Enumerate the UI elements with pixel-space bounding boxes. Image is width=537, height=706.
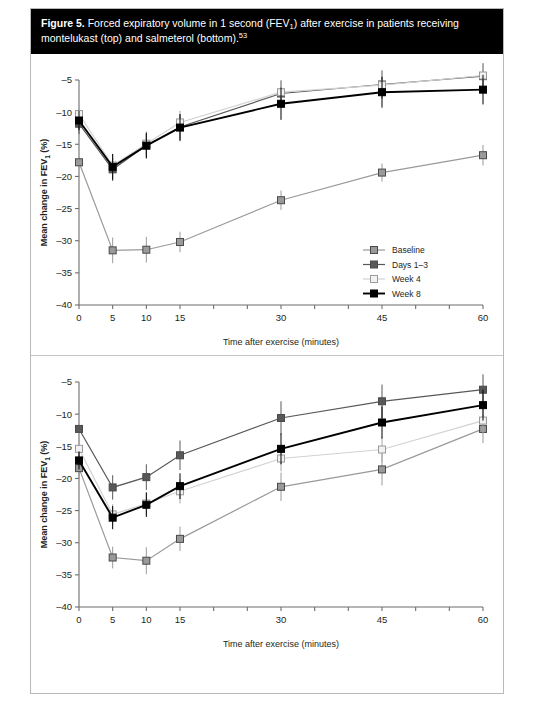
y-tick-label: –30 <box>56 236 72 247</box>
series-baseline <box>76 145 487 263</box>
x-tick-label: 5 <box>110 614 115 625</box>
x-tick-label: 15 <box>175 614 186 625</box>
figure-caption: Figure 5. Forced expiratory volume in 1 … <box>31 9 503 54</box>
y-axis-title: Mean change in FEV1 (%) <box>39 139 51 247</box>
x-tick-label: 45 <box>377 614 388 625</box>
data-point-marker <box>143 558 150 565</box>
series-week-8 <box>76 75 487 180</box>
y-tick-label: –15 <box>56 441 72 452</box>
data-point-marker <box>177 125 184 132</box>
data-point-marker <box>109 247 116 254</box>
x-tick-label: 15 <box>175 312 186 323</box>
y-tick-label: –5 <box>61 377 72 388</box>
x-tick-label: 10 <box>141 312 152 323</box>
y-tick-label: –20 <box>56 171 72 182</box>
chart-legend: BaselineDays 1–3Week 4Week 8 <box>363 246 428 300</box>
data-point-marker <box>177 483 184 490</box>
data-point-marker <box>278 101 285 108</box>
data-point-marker <box>379 398 386 405</box>
data-point-marker <box>278 446 285 453</box>
data-point-marker <box>379 466 386 473</box>
legend-label-3: Week 8 <box>392 289 421 299</box>
data-point-marker <box>143 474 150 481</box>
x-tick-label: 30 <box>276 614 287 625</box>
y-tick-label: –30 <box>56 538 72 549</box>
x-tick-label: 30 <box>276 312 287 323</box>
x-tick-label: 60 <box>478 614 489 625</box>
legend-marker-0 <box>371 247 378 254</box>
data-point-marker <box>480 87 487 94</box>
montelukast-chart: –5–10–15–20–25–30–35–40051015304560Time … <box>31 54 503 356</box>
data-point-marker <box>109 515 116 522</box>
y-tick-label: –40 <box>56 300 72 311</box>
legend-marker-1 <box>371 261 378 268</box>
data-point-marker <box>379 170 386 177</box>
data-point-marker <box>278 415 285 422</box>
y-tick-label: –10 <box>56 409 72 420</box>
chart-panel-montelukast: –5–10–15–20–25–30–35–40051015304560Time … <box>31 54 503 356</box>
figure-number: Figure 5. <box>41 17 85 29</box>
data-point-marker <box>109 484 116 491</box>
data-point-marker <box>177 452 184 459</box>
data-point-marker <box>379 446 386 453</box>
x-tick-label: 45 <box>377 312 388 323</box>
data-point-marker <box>109 554 116 561</box>
y-axis-suffix: (%) <box>39 139 49 156</box>
data-point-marker <box>480 402 487 409</box>
y-tick-label: –10 <box>56 107 72 118</box>
data-point-marker <box>480 152 487 159</box>
data-point-marker <box>76 446 83 453</box>
y-tick-label: –15 <box>56 139 72 150</box>
salmeterol-chart: –5–10–15–20–25–30–35–40051015304560Time … <box>31 356 503 658</box>
x-tick-label: 60 <box>478 312 489 323</box>
data-point-marker <box>76 117 83 124</box>
y-tick-label: –35 <box>56 268 72 279</box>
data-point-marker <box>278 484 285 491</box>
x-tick-label: 5 <box>110 312 115 323</box>
x-axis-title: Time after exercise (minutes) <box>223 639 339 649</box>
legend-label-1: Days 1–3 <box>392 260 428 270</box>
x-tick-label: 0 <box>76 312 81 323</box>
data-point-marker <box>379 89 386 96</box>
data-point-marker <box>177 239 184 246</box>
data-point-marker <box>76 159 83 166</box>
y-axis-title: Mean change in FEV1 (%) <box>39 441 51 549</box>
y-tick-label: –40 <box>56 602 72 613</box>
x-tick-label: 0 <box>76 614 81 625</box>
caption-fev-subscript: 1 <box>290 22 294 31</box>
data-point-marker <box>143 247 150 254</box>
figure-container: Figure 5. Forced expiratory volume in 1 … <box>30 8 504 694</box>
y-tick-label: –25 <box>56 505 72 516</box>
caption-reference-superscript: 53 <box>239 31 247 40</box>
caption-text-part1: Forced expiratory volume in 1 second (FE… <box>88 17 290 29</box>
data-point-marker <box>379 419 386 426</box>
legend-label-2: Week 4 <box>392 275 421 285</box>
x-tick-label: 10 <box>141 614 152 625</box>
chart-panel-salmeterol: –5–10–15–20–25–30–35–40051015304560Time … <box>31 356 503 656</box>
data-point-marker <box>143 502 150 509</box>
data-point-marker <box>177 536 184 543</box>
data-point-marker <box>76 426 83 433</box>
legend-marker-3 <box>371 290 378 297</box>
data-point-marker <box>278 197 285 204</box>
data-point-marker <box>109 164 116 171</box>
y-tick-label: –20 <box>56 473 72 484</box>
y-tick-label: –35 <box>56 570 72 581</box>
legend-label-0: Baseline <box>392 246 425 256</box>
y-tick-label: –25 <box>56 203 72 214</box>
y-tick-label: –5 <box>61 75 72 86</box>
legend-marker-2 <box>371 276 378 283</box>
data-point-marker <box>143 143 150 150</box>
x-axis-title: Time after exercise (minutes) <box>223 337 339 347</box>
y-axis-suffix: (%) <box>39 441 49 458</box>
data-point-marker <box>76 457 83 464</box>
